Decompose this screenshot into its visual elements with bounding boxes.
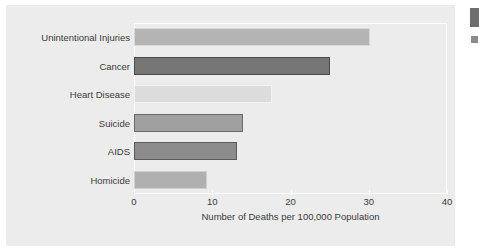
x-tick-label: 10 (207, 196, 218, 207)
x-tick-label: 20 (285, 196, 296, 207)
bar-fill (134, 142, 237, 160)
bar-fill (134, 57, 330, 75)
bar-fill (134, 85, 272, 103)
plot-area-frame (134, 23, 447, 194)
x-tick-mark (212, 190, 213, 195)
bar (134, 57, 330, 75)
bar-fill (134, 171, 207, 189)
bar-fill (134, 114, 243, 132)
x-tick-label: 0 (131, 196, 136, 207)
category-label: Cancer (4, 60, 130, 71)
edge-fragment-top-icon (470, 8, 479, 27)
bar-fill (134, 28, 370, 46)
x-tick-mark (369, 190, 370, 195)
bar (134, 28, 370, 46)
x-tick-label: 40 (442, 196, 453, 207)
category-label: Suicide (4, 117, 130, 128)
category-label: Unintentional Injuries (4, 32, 130, 43)
bar-chart-figure: Unintentional Injuries Cancer Heart Dise… (0, 0, 479, 251)
bar (134, 114, 243, 132)
bar (134, 142, 237, 160)
category-axis-labels: Unintentional Injuries Cancer Heart Dise… (0, 0, 130, 251)
edge-fragment-bottom-icon (471, 36, 478, 43)
x-tick-mark (447, 190, 448, 195)
x-axis-title: Number of Deaths per 100,000 Population (134, 211, 447, 222)
x-tick-mark (134, 190, 135, 195)
bar (134, 171, 207, 189)
x-tick-mark (291, 190, 292, 195)
category-label: Heart Disease (4, 89, 130, 100)
category-label: Homicide (4, 174, 130, 185)
bar (134, 85, 272, 103)
x-tick-label: 30 (363, 196, 374, 207)
category-label: AIDS (4, 146, 130, 157)
